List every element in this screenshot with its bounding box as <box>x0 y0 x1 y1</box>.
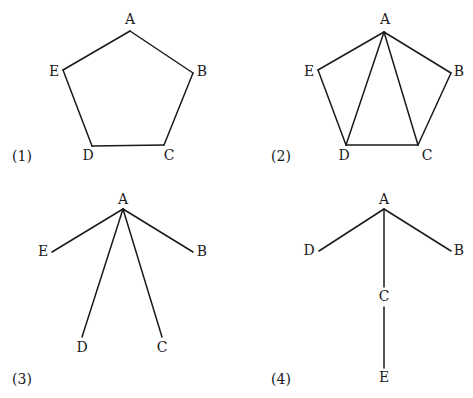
figure-1-pentagon: ABCDE(1) <box>12 11 207 164</box>
figure-caption: (2) <box>271 148 291 164</box>
figure-4-tree: ABCDE(4) <box>271 191 464 387</box>
vertex-label-e: E <box>49 63 59 79</box>
edge-a-c <box>123 209 162 337</box>
edge-d-e <box>318 70 346 145</box>
edge-e-a <box>318 32 384 70</box>
vertex-label-c: C <box>379 288 390 304</box>
figure-caption: (3) <box>12 371 32 387</box>
vertex-label-a: A <box>379 11 391 27</box>
figure-caption: (1) <box>12 148 32 164</box>
edge-c-d <box>92 145 164 146</box>
vertex-label-d: D <box>303 242 314 258</box>
figure-3-star-tree: ABCDE(3) <box>12 191 207 387</box>
edge-d-e <box>63 70 92 146</box>
vertex-label-a: A <box>124 11 136 27</box>
vertex-label-d: D <box>82 147 93 163</box>
vertex-label-b: B <box>197 243 207 259</box>
edge-b-c <box>164 73 193 145</box>
edge-a-e <box>52 209 123 252</box>
vertex-label-d: D <box>338 147 349 163</box>
edge-a-b <box>384 209 451 251</box>
vertex-label-e: E <box>304 63 314 79</box>
vertex-label-b: B <box>197 63 207 79</box>
vertex-label-c: C <box>164 147 175 163</box>
graph-diagram-canvas: ABCDE(1) ABCDE(2) ABCDE(3) ABCDE(4) <box>0 0 473 398</box>
vertex-label-b: B <box>454 63 464 79</box>
vertex-label-c: C <box>422 147 433 163</box>
figure-2-pentagon-with-diagonals: ABCDE(2) <box>271 11 464 164</box>
vertex-label-a: A <box>117 191 129 207</box>
edge-a-d <box>82 209 123 337</box>
vertex-label-d: D <box>76 339 87 355</box>
vertex-label-b: B <box>454 242 464 258</box>
vertex-label-c: C <box>157 339 168 355</box>
edge-a-d <box>319 209 384 251</box>
edge-b-c <box>418 73 451 145</box>
vertex-label-a: A <box>378 191 390 207</box>
vertex-label-e: E <box>379 369 389 385</box>
edge-e-a <box>63 31 130 70</box>
edge-a-b <box>130 31 193 73</box>
vertex-label-e: E <box>38 243 48 259</box>
figure-caption: (4) <box>271 371 291 387</box>
edge-a-d <box>346 32 384 145</box>
